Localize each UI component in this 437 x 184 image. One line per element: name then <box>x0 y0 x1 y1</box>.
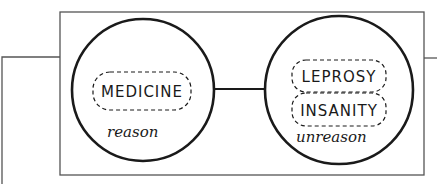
reason-unreason-diagram: MEDICINE reason LEPROSY INSANITY unreaso… <box>0 0 437 184</box>
insanity-label: INSANITY <box>300 102 378 120</box>
leprosy-label: LEPROSY <box>302 68 377 86</box>
right-circle-group: LEPROSY INSANITY unreason <box>265 16 413 164</box>
unreason-caption: unreason <box>296 128 367 146</box>
outer-left-bracket-line <box>2 57 60 184</box>
medicine-label: MEDICINE <box>101 83 183 101</box>
left-circle-group: MEDICINE reason <box>72 19 214 161</box>
reason-caption: reason <box>107 123 158 141</box>
